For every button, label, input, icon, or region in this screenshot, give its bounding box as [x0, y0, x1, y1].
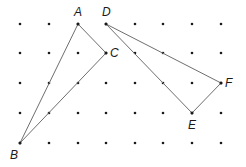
- grid-dot: [48, 52, 51, 55]
- grid-dot: [77, 52, 80, 55]
- grid-dot: [134, 142, 137, 145]
- label-f: F: [225, 76, 233, 90]
- grid-dot: [191, 82, 194, 85]
- grid-dot: [105, 112, 108, 115]
- label-e: E: [188, 118, 197, 132]
- vertex-labels: ABCDEF: [10, 5, 233, 162]
- grid-dot: [134, 23, 137, 26]
- dot-grid-diagram: ABCDEF: [0, 0, 246, 167]
- label-b: B: [10, 148, 18, 162]
- label-c: C: [110, 46, 119, 60]
- grid-dot: [77, 142, 80, 145]
- grid-dot: [19, 23, 22, 26]
- grid-dot: [19, 82, 22, 85]
- triangle-DEF: [106, 24, 221, 113]
- grid-dot: [105, 82, 108, 85]
- vertex-e: [191, 112, 194, 115]
- grid-dot: [19, 52, 22, 55]
- vertex-a: [77, 23, 80, 26]
- grid-dot: [162, 23, 165, 26]
- grid-dot: [191, 52, 194, 55]
- vertex-b: [19, 142, 22, 145]
- grid-dot: [105, 142, 108, 145]
- grid-dot: [220, 142, 223, 145]
- triangle-ABC: [20, 24, 106, 143]
- grid-dot: [48, 142, 51, 145]
- grid-dot: [220, 23, 223, 26]
- grid-dot: [77, 112, 80, 115]
- grid-dot: [134, 112, 137, 115]
- grid-dot: [191, 142, 194, 145]
- vertex-c: [105, 52, 108, 55]
- grid-dot: [19, 112, 22, 115]
- vertex-f: [220, 82, 223, 85]
- grid-dot: [220, 52, 223, 55]
- vertex-d: [105, 23, 108, 26]
- grid-dot: [134, 82, 137, 85]
- grid-dot: [162, 142, 165, 145]
- label-a: A: [73, 5, 82, 19]
- grid-dot: [48, 23, 51, 26]
- grid-dot: [191, 23, 194, 26]
- label-d: D: [102, 5, 111, 19]
- grid-dot: [162, 112, 165, 115]
- grid-dot: [220, 112, 223, 115]
